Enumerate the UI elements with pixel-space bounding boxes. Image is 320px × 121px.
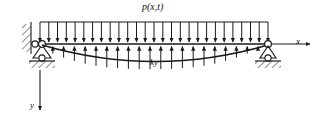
y-axis-label: y	[30, 100, 34, 110]
hinge-circle-icon	[32, 41, 38, 47]
load-label: p(x,t)	[142, 1, 163, 12]
hatched-wall-icon	[22, 22, 31, 54]
foundation-label: ky	[150, 57, 158, 67]
beam-elastic-foundation-diagram: p(x,t) ky x y	[0, 0, 320, 121]
hatched-ground-icon	[255, 61, 281, 68]
roller-support-icon	[255, 46, 281, 68]
pin-support-icon	[29, 45, 55, 68]
x-axis-label: x	[296, 36, 300, 46]
diagram-canvas	[0, 0, 320, 121]
hatched-ground-icon	[29, 61, 55, 68]
down-arrow-icon	[40, 22, 268, 42]
